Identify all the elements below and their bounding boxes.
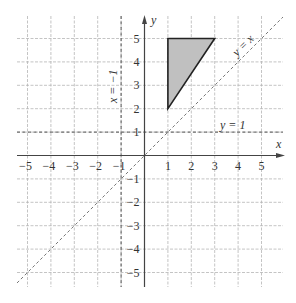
y-axis-arrow-icon: [142, 15, 147, 24]
x-tick-label: −4: [43, 159, 56, 173]
x-tick-label: 2: [188, 159, 194, 173]
y-tick-label: 4: [134, 55, 140, 69]
y-tick-label: −5: [127, 266, 140, 280]
y-tick-label: 1: [134, 125, 140, 139]
y-axis-label: y: [150, 13, 157, 27]
coordinate-plane: −5−4−3−2−11234554321−1−2−3−4−5 x y y = 1…: [0, 0, 296, 303]
x-tick-label: 1: [165, 159, 171, 173]
x-tick-label: −3: [66, 159, 79, 173]
x-tick-label: 4: [235, 159, 241, 173]
label-y-equals-1: y = 1: [219, 118, 245, 132]
x-axis-arrow-icon: [276, 153, 285, 158]
label-x-equals-minus-1: x = −1: [106, 69, 120, 104]
y-tick-label: −1: [127, 172, 140, 186]
line-y-equals-x: [17, 17, 283, 283]
x-tick-label: −5: [19, 159, 32, 173]
y-tick-label: −3: [127, 219, 140, 233]
y-tick-label: 5: [134, 32, 140, 46]
label-y-equals-x: y = x: [229, 31, 258, 60]
x-tick-label: 3: [212, 159, 218, 173]
y-tick-label: −4: [127, 242, 140, 256]
y-tick-label: −2: [127, 195, 140, 209]
y-tick-label: 2: [134, 102, 140, 116]
x-tick-label: −2: [89, 159, 102, 173]
x-tick-label: 5: [259, 159, 265, 173]
x-axis-label: x: [275, 137, 282, 151]
y-tick-label: 3: [134, 78, 140, 92]
x-tick-label: −1: [113, 159, 126, 173]
